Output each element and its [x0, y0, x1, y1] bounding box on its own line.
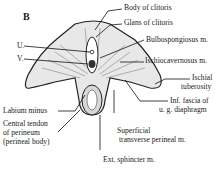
label-inf-fascia-line2: u. g. diaphragm — [159, 106, 207, 115]
label-glans-of-clitoris: Glans of clitoris — [124, 19, 173, 28]
label-labium-minus: Labium minus — [3, 107, 47, 116]
label-superficial-line2: transverse perineal m. — [119, 136, 186, 145]
label-urethra: U. — [17, 42, 24, 51]
label-vagina: V. — [17, 55, 23, 64]
perineum-diagram: B Body of clitoris Glans of clitoris Bul… — [0, 0, 218, 171]
panel-letter: B — [23, 11, 30, 22]
label-ischial-tuberosity-line2: tuberosity — [181, 83, 211, 92]
label-ischiocavernosus: Ischiocavernosus m. — [145, 57, 207, 66]
label-ext-sphincter: Ext. sphincter m. — [103, 156, 155, 165]
label-body-of-clitoris: Body of clitoris — [124, 4, 172, 13]
label-bulbospongiosus: Bulbospongiosus m. — [146, 36, 208, 45]
label-central-tendon-line3: (perineal body) — [3, 138, 50, 147]
